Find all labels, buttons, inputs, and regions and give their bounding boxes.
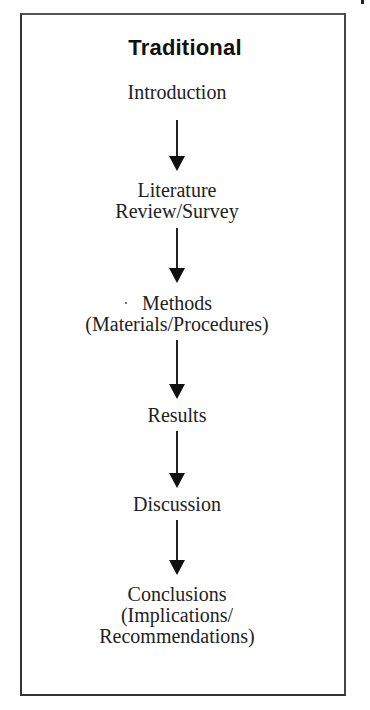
step-results: Results <box>0 405 354 426</box>
step-label: (Materials/Procedures) <box>0 314 354 335</box>
arrow-down-icon <box>165 120 189 172</box>
step-label: Introduction <box>0 82 354 103</box>
step-label: Discussion <box>0 494 354 515</box>
step-methods: Methods (Materials/Procedures) <box>0 293 354 335</box>
step-label: Recommendations) <box>0 626 354 647</box>
step-discussion: Discussion <box>0 494 354 515</box>
step-label: Conclusions <box>0 584 354 605</box>
arrow-down-icon <box>165 340 189 400</box>
cropped-glyph <box>361 0 364 4</box>
step-label: Review/Survey <box>0 201 354 222</box>
step-literature-review: Literature Review/Survey <box>0 180 354 222</box>
step-introduction: Introduction <box>0 82 354 103</box>
arrow-down-icon <box>165 431 189 489</box>
step-label: (Implications/ <box>0 605 354 626</box>
step-label: Methods <box>0 293 354 314</box>
step-label: Literature <box>0 180 354 201</box>
arrow-down-icon <box>165 228 189 284</box>
step-label: Results <box>0 405 354 426</box>
cropped-heading-fragment <box>0 0 370 6</box>
step-conclusions: Conclusions (Implications/ Recommendatio… <box>0 584 354 647</box>
diagram-title: Traditional <box>0 34 370 62</box>
arrow-down-icon <box>165 520 189 576</box>
